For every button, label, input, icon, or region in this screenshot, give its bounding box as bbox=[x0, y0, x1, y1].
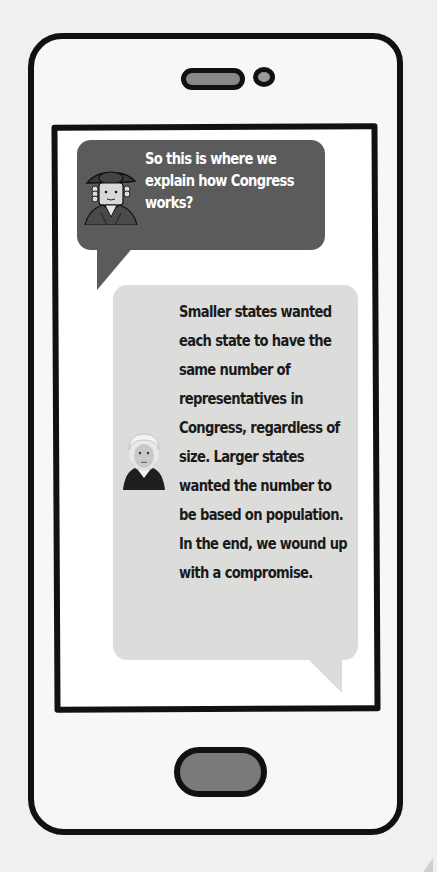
message-bubble-question-tail bbox=[97, 245, 135, 290]
home-button[interactable] bbox=[174, 747, 267, 797]
page-corner-mark bbox=[423, 858, 433, 872]
message-bubble-answer-tail bbox=[304, 655, 342, 693]
message-text-answer: Smaller states wanted each state to have… bbox=[179, 297, 347, 587]
george-washington-avatar-icon bbox=[121, 430, 167, 490]
message-text-question: So this is where we explain how Congress… bbox=[145, 148, 309, 214]
phone-speaker bbox=[181, 68, 245, 90]
phone-camera-icon bbox=[253, 67, 275, 87]
colonial-man-avatar-icon bbox=[83, 163, 139, 225]
